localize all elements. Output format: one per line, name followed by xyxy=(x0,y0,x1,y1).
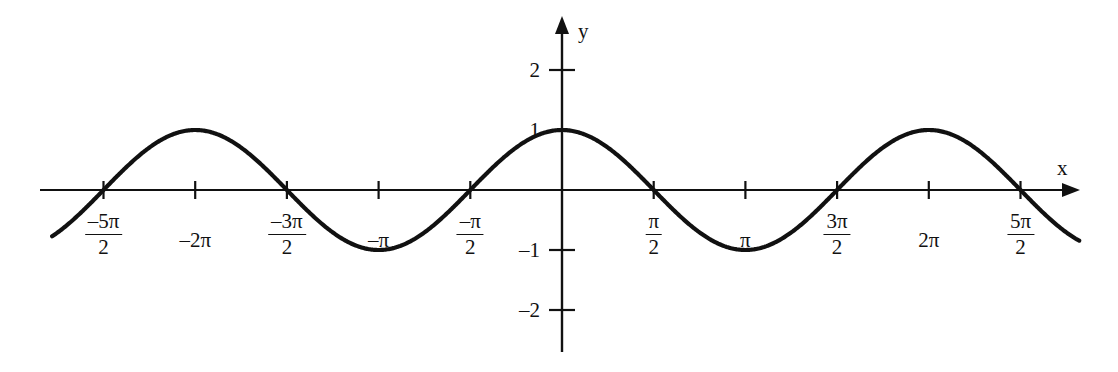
y-tick-label: 2 xyxy=(530,60,541,81)
x-tick-label: 5π2 xyxy=(1007,210,1034,258)
x-tick-label: –3π2 xyxy=(268,210,306,258)
x-tick-label: π xyxy=(740,230,751,251)
x-tick-label: –2π xyxy=(179,230,211,251)
y-axis xyxy=(555,16,569,352)
y-axis-label: y xyxy=(578,21,589,42)
x-tick-label: –5π2 xyxy=(85,210,123,258)
x-tick-label: 3π2 xyxy=(824,210,851,258)
x-tick-label: –π xyxy=(368,230,389,251)
y-axis-arrowhead xyxy=(555,16,569,34)
x-tick-label: π2 xyxy=(645,210,662,258)
cosine-graph-figure: x y –5π2–2π–3π2–π–π2π2π3π22π5π2 21–1–2 xyxy=(0,0,1118,372)
y-tick-label: 1 xyxy=(530,120,541,141)
y-tick-label: –1 xyxy=(519,240,540,261)
y-tick-label: –2 xyxy=(519,300,540,321)
x-tick-label: –π2 xyxy=(457,210,484,258)
x-axis-label: x xyxy=(1057,158,1068,179)
plot-canvas xyxy=(0,0,1118,372)
x-axis-arrowhead xyxy=(1062,183,1080,197)
x-tick-label: 2π xyxy=(918,230,939,251)
